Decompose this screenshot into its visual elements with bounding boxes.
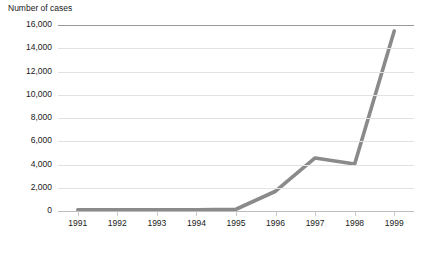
series-line-number-of-cases	[78, 31, 394, 210]
x-tick-label: 1997	[295, 218, 335, 228]
x-tick-mark	[276, 211, 277, 216]
plot-area	[58, 25, 414, 211]
gridline-14000	[58, 48, 414, 49]
y-tick-label: 10,000	[6, 90, 52, 99]
gridline-10000	[58, 95, 414, 96]
y-tick-label: 14,000	[6, 43, 52, 52]
gridline-16000	[58, 25, 414, 26]
y-tick-label: 12,000	[6, 67, 52, 76]
y-tick-label: 0	[6, 206, 52, 215]
x-tick-label: 1996	[256, 218, 296, 228]
x-tick-label: 1991	[58, 218, 98, 228]
gridline-8000	[58, 118, 414, 119]
x-tick-mark	[157, 211, 158, 216]
x-tick-label: 1992	[97, 218, 137, 228]
x-tick-label: 1994	[176, 218, 216, 228]
y-tick-label: 2,000	[6, 183, 52, 192]
gridline-4000	[58, 165, 414, 166]
chart-axis-title: Number of cases	[8, 3, 72, 13]
x-tick-mark	[315, 211, 316, 216]
x-tick-label: 1995	[216, 218, 256, 228]
x-tick-mark	[236, 211, 237, 216]
x-tick-label: 1993	[137, 218, 177, 228]
x-axis: 199119921993199419951996199719981999	[58, 211, 414, 241]
y-tick-label: 4,000	[6, 160, 52, 169]
gridline-12000	[58, 72, 414, 73]
y-tick-label: 6,000	[6, 136, 52, 145]
x-tick-mark	[117, 211, 118, 216]
x-tick-label: 1998	[335, 218, 375, 228]
x-tick-mark	[355, 211, 356, 216]
gridline-6000	[58, 141, 414, 142]
line-chart: Number of cases 199119921993199419951996…	[0, 0, 424, 253]
x-tick-mark	[394, 211, 395, 216]
y-tick-label: 16,000	[6, 20, 52, 29]
y-tick-label: 8,000	[6, 113, 52, 122]
gridline-2000	[58, 188, 414, 189]
x-tick-mark	[78, 211, 79, 216]
x-tick-label: 1999	[374, 218, 414, 228]
x-tick-mark	[196, 211, 197, 216]
